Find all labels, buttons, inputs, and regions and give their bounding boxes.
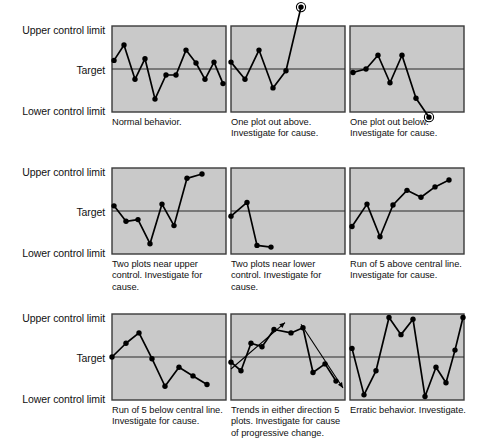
data-point-marker bbox=[322, 361, 327, 366]
data-point-marker bbox=[460, 315, 465, 320]
data-point-marker bbox=[132, 77, 137, 82]
plot-area-panel-8 bbox=[231, 314, 345, 400]
plot-area-panel-7 bbox=[112, 314, 226, 400]
chart-svg-panel-3 bbox=[336, 2, 478, 136]
chart-panel-one-plot-out-below bbox=[350, 26, 464, 112]
chart-row-3: Upper control limit Target Lower control… bbox=[0, 288, 482, 437]
data-point-marker bbox=[149, 356, 154, 361]
data-point-marker bbox=[142, 56, 147, 61]
chart-panel-run-of-5-above bbox=[350, 168, 464, 254]
data-point-marker bbox=[452, 347, 457, 352]
data-point-marker bbox=[242, 77, 247, 82]
data-point-marker bbox=[443, 380, 448, 385]
data-point-marker bbox=[254, 243, 259, 248]
data-point-marker bbox=[361, 392, 366, 397]
data-point-marker bbox=[300, 325, 305, 330]
data-point-marker bbox=[248, 341, 253, 346]
plot-area-panel-2 bbox=[231, 26, 345, 112]
caption-panel-3: One plot out below. Investigate for caus… bbox=[350, 117, 466, 140]
caption-panel-9: Erratic behavior. Investigate. bbox=[350, 405, 466, 416]
data-point-marker bbox=[163, 72, 168, 77]
data-point-marker bbox=[123, 341, 128, 346]
chart-panel-run-of-5-below bbox=[112, 314, 226, 400]
data-point-marker bbox=[363, 66, 368, 71]
data-point-marker bbox=[184, 176, 189, 181]
chart-row-1: Upper control limit Target Lower control… bbox=[0, 0, 482, 145]
data-point-marker bbox=[202, 77, 207, 82]
data-point-marker bbox=[349, 224, 354, 229]
data-point-marker bbox=[162, 384, 167, 389]
data-point-marker bbox=[418, 195, 423, 200]
data-point-marker bbox=[111, 58, 116, 63]
data-point-marker bbox=[211, 59, 216, 64]
data-point-marker bbox=[377, 234, 382, 239]
plot-area-panel-3 bbox=[350, 26, 464, 112]
data-point-marker bbox=[244, 200, 249, 205]
caption-panel-6: Run of 5 above central line. Investigate… bbox=[350, 259, 466, 282]
axis-label-upper-control-limit: Upper control limit bbox=[22, 167, 105, 178]
caption-panel-2: One plot out above. Investigate for caus… bbox=[231, 117, 347, 140]
data-point-marker bbox=[159, 201, 164, 206]
data-point-marker bbox=[364, 201, 369, 206]
data-point-marker bbox=[204, 382, 209, 387]
data-point-marker bbox=[390, 202, 395, 207]
data-point-marker bbox=[349, 346, 354, 351]
plot-area-panel-4 bbox=[112, 168, 226, 254]
data-point-marker bbox=[135, 217, 140, 222]
data-point-marker bbox=[387, 80, 392, 85]
data-point-marker bbox=[121, 42, 126, 47]
data-point-marker bbox=[310, 370, 315, 375]
axis-label-group-row-1: Upper control limit Target Lower control… bbox=[0, 26, 107, 118]
data-point-marker bbox=[413, 96, 418, 101]
data-point-marker bbox=[123, 219, 128, 224]
data-point-marker bbox=[171, 223, 176, 228]
chart-svg-panel-9 bbox=[336, 290, 478, 424]
plot-area-panel-9 bbox=[350, 314, 464, 400]
data-point-marker bbox=[386, 315, 391, 320]
axis-label-group-row-2: Upper control limit Target Lower control… bbox=[0, 168, 107, 260]
data-point-marker bbox=[259, 344, 264, 349]
data-point-marker bbox=[398, 332, 403, 337]
data-point-marker bbox=[373, 368, 378, 373]
data-point-out-of-control bbox=[298, 4, 303, 9]
data-point-marker bbox=[433, 365, 438, 370]
chart-panel-one-plot-out-above bbox=[231, 26, 345, 112]
data-point-marker bbox=[350, 70, 355, 75]
data-point-marker bbox=[109, 354, 114, 359]
data-point-marker bbox=[399, 53, 404, 58]
data-point-marker bbox=[238, 368, 243, 373]
data-point-marker bbox=[152, 96, 157, 101]
chart-panel-two-plots-near-upper bbox=[112, 168, 226, 254]
data-point-marker bbox=[228, 359, 233, 364]
caption-panel-8: Trends in either direction 5 plots. Inve… bbox=[231, 405, 347, 439]
data-point-marker bbox=[193, 60, 198, 65]
data-point-marker bbox=[176, 365, 181, 370]
chart-svg-panel-6 bbox=[336, 144, 478, 278]
axis-label-upper-control-limit: Upper control limit bbox=[22, 25, 105, 36]
data-point-marker bbox=[375, 53, 380, 58]
data-point-marker bbox=[136, 330, 141, 335]
data-point-marker bbox=[283, 68, 288, 73]
chart-panel-two-plots-near-lower bbox=[231, 168, 345, 254]
data-point-marker bbox=[173, 72, 178, 77]
axis-label-lower-control-limit: Lower control limit bbox=[22, 248, 105, 259]
data-point-marker bbox=[270, 85, 275, 90]
data-point-marker bbox=[422, 394, 427, 399]
data-point-marker bbox=[256, 47, 261, 52]
data-point-marker bbox=[432, 184, 437, 189]
axis-label-group-row-3: Upper control limit Target Lower control… bbox=[0, 314, 107, 406]
chart-row-2: Upper control limit Target Lower control… bbox=[0, 142, 482, 290]
caption-panel-1: Normal behavior. bbox=[112, 117, 228, 128]
data-point-marker bbox=[288, 330, 293, 335]
data-point-marker bbox=[190, 373, 195, 378]
data-point-marker bbox=[410, 316, 415, 321]
data-point-marker bbox=[268, 244, 273, 249]
data-point-marker bbox=[147, 241, 152, 246]
data-point-marker bbox=[111, 203, 116, 208]
chart-panel-erratic-behavior bbox=[350, 314, 464, 400]
data-point-marker bbox=[183, 47, 188, 52]
data-point-marker bbox=[228, 213, 233, 218]
data-point-marker bbox=[271, 327, 276, 332]
data-point-marker bbox=[404, 188, 409, 193]
